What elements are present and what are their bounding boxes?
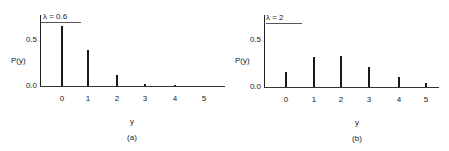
- bar-y-3: [144, 84, 146, 86]
- bar-y-4: [174, 85, 176, 86]
- x-axis: [40, 86, 225, 87]
- x-axis-label: y: [127, 117, 137, 126]
- y-tick-0.5: 0.5: [13, 35, 37, 44]
- y-tick-0.5: 0.5: [237, 35, 261, 44]
- y-tick-0.0: 0.0: [13, 81, 37, 90]
- panel-caption: (b): [349, 134, 365, 143]
- chart-panel-b: λ = 2 0.5 0.0 P(y) 012345 y (b): [225, 0, 449, 151]
- x-tick-5: 5: [421, 95, 431, 104]
- y-axis-label: P(y): [235, 56, 250, 65]
- y-axis: [40, 15, 41, 87]
- bar-y-2: [340, 56, 342, 87]
- bar-y-3: [368, 67, 370, 87]
- x-tick-0: 0: [57, 94, 67, 103]
- bar-y-1: [87, 50, 89, 86]
- x-tick-0: 0: [281, 95, 291, 104]
- x-tick-2: 2: [112, 94, 122, 103]
- bar-y-5: [425, 83, 427, 87]
- lambda-underline: [41, 22, 81, 23]
- bar-y-2: [116, 75, 118, 86]
- x-tick-5: 5: [199, 94, 209, 103]
- x-tick-4: 4: [170, 94, 180, 103]
- x-axis: [264, 87, 439, 88]
- x-tick-3: 3: [364, 95, 374, 104]
- y-tick-0.0: 0.0: [237, 82, 261, 91]
- chart-panel-a: λ = 0.6 0.5 0.0 P(y) 012345 y (a): [0, 0, 225, 151]
- bar-y-0: [285, 72, 287, 87]
- x-axis-label: y: [352, 118, 362, 127]
- lambda-label: λ = 2: [266, 13, 284, 22]
- bar-y-1: [313, 57, 315, 87]
- panel-caption: (a): [124, 133, 140, 142]
- lambda-label: λ = 0.6: [43, 12, 67, 21]
- x-tick-1: 1: [309, 95, 319, 104]
- y-axis-label: P(y): [11, 56, 26, 65]
- lambda-underline: [266, 23, 302, 24]
- x-tick-3: 3: [140, 94, 150, 103]
- bar-y-4: [398, 77, 400, 87]
- x-tick-4: 4: [394, 95, 404, 104]
- x-tick-2: 2: [336, 95, 346, 104]
- bar-y-0: [61, 26, 63, 86]
- y-axis: [264, 15, 265, 88]
- x-tick-1: 1: [83, 94, 93, 103]
